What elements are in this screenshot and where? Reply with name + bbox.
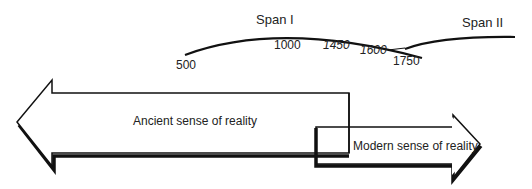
year-1450: 1450 — [323, 39, 350, 51]
span-1-label: Span I — [256, 13, 294, 26]
leader-1600 — [388, 48, 405, 50]
span-2-arc — [405, 37, 515, 49]
year-1750: 1750 — [393, 55, 420, 67]
diagram-canvas — [0, 0, 532, 189]
ancient-sense-label: Ancient sense of reality — [133, 115, 257, 127]
year-500: 500 — [176, 59, 196, 71]
year-1600: 1600 — [360, 44, 387, 56]
span-2-label: Span II — [462, 16, 503, 29]
year-1000: 1000 — [274, 39, 301, 51]
modern-sense-label: Modern sense of reality — [353, 140, 478, 152]
